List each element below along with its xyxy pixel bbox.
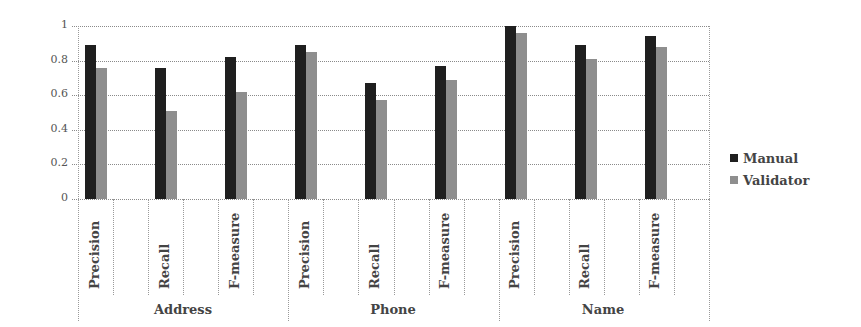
category-divider [534,199,535,295]
group-divider [709,199,710,321]
gridline [72,61,709,62]
grouped-bar-chart: Manual Validator Address Phone Name 00.2… [0,0,861,327]
legend-item-manual: Manual [730,147,809,169]
bar-validator-recall [166,111,177,199]
legend-label-manual: Manual [743,151,798,166]
bar-manual-f-measure [645,36,656,199]
bar-validator-precision [306,52,317,199]
category-label: Recall [157,244,172,289]
y-tick-label: 0.8 [38,53,68,66]
bar-manual-f-measure [225,57,236,199]
category-divider [218,199,219,295]
legend-swatch-validator [730,176,738,184]
category-label: Precision [507,221,522,289]
bar-manual-f-measure [435,66,446,199]
group-divider [288,199,289,321]
bar-validator-f-measure [236,92,247,199]
bar-manual-precision [85,45,96,199]
category-label: Recall [577,244,592,289]
group-divider [78,199,79,321]
y-tick-label: 1 [38,18,68,31]
y-tick-label: 0.2 [38,156,68,169]
y-tick-label: 0.6 [38,87,68,100]
bar-validator-recall [586,59,597,199]
bar-validator-f-measure [446,80,457,199]
gridline [72,26,709,27]
category-divider [639,199,640,295]
category-divider [113,199,114,295]
category-divider [183,199,184,295]
category-divider [358,199,359,295]
bar-manual-precision [505,26,516,199]
bar-manual-recall [575,45,586,199]
bar-validator-recall [376,100,387,199]
category-divider [674,199,675,295]
legend-label-validator: Validator [743,173,809,188]
legend-swatch-manual [730,154,738,162]
category-divider [253,199,254,295]
category-label: F-measure [437,213,452,289]
legend: Manual Validator [730,147,809,191]
category-divider [604,199,605,295]
plot-right-border [709,26,710,199]
category-divider [148,199,149,295]
y-tick-label: 0.4 [38,122,68,135]
gridline [72,95,709,96]
group-label-name: Name [498,302,708,317]
category-label: F-measure [227,213,242,289]
plot-left-border [78,26,79,199]
category-divider [394,199,395,295]
category-divider [569,199,570,295]
y-tick-label: 0 [38,191,68,204]
category-divider [464,199,465,295]
group-label-phone: Phone [288,302,498,317]
category-label: Precision [297,221,312,289]
bar-validator-precision [516,33,527,199]
category-divider [429,199,430,295]
gridline [72,199,709,200]
bar-manual-recall [155,68,166,199]
group-divider [499,199,500,321]
bar-manual-recall [365,83,376,199]
group-label-address: Address [78,302,288,317]
bar-validator-f-measure [656,47,667,199]
bar-manual-precision [295,45,306,199]
category-label: Recall [367,244,382,289]
legend-item-validator: Validator [730,169,809,191]
bar-validator-precision [96,68,107,199]
category-divider [323,199,324,295]
category-label: F-measure [647,213,662,289]
category-label: Precision [87,221,102,289]
